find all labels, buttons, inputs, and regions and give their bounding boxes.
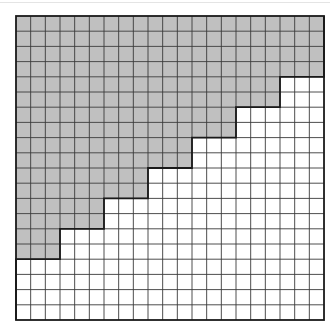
shaded-row [16, 168, 148, 183]
shaded-row [16, 46, 324, 61]
shaded-row [16, 244, 60, 259]
shaded-row [16, 31, 324, 46]
shaded-row [16, 183, 148, 198]
shaded-row [16, 229, 60, 244]
shaded-row [16, 16, 324, 31]
shaded-row [16, 122, 236, 137]
shaded-row [16, 62, 324, 77]
shaded-row [16, 107, 236, 122]
staircase-grid-diagram [0, 0, 330, 331]
